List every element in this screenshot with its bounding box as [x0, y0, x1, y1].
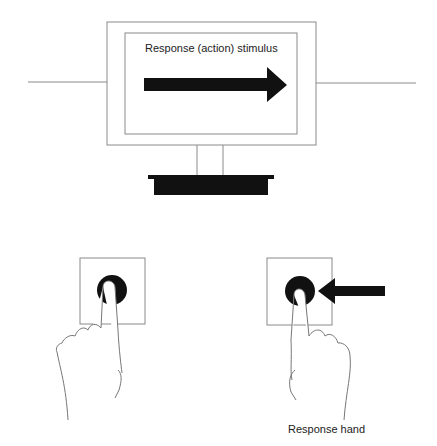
- response-arrow-left-icon: [318, 278, 385, 304]
- right-hand-icon: [290, 289, 351, 420]
- stimulus-arrow-right-icon: [144, 67, 287, 102]
- response-hand-label: Response hand: [288, 423, 365, 435]
- diagram-canvas: [0, 0, 437, 446]
- left-response-button-group: [56, 258, 145, 420]
- stimulus-label: Response (action) stimulus: [145, 42, 278, 54]
- right-response-button-group: [267, 258, 385, 420]
- monitor-base: [154, 178, 268, 195]
- left-hand-icon: [56, 281, 122, 420]
